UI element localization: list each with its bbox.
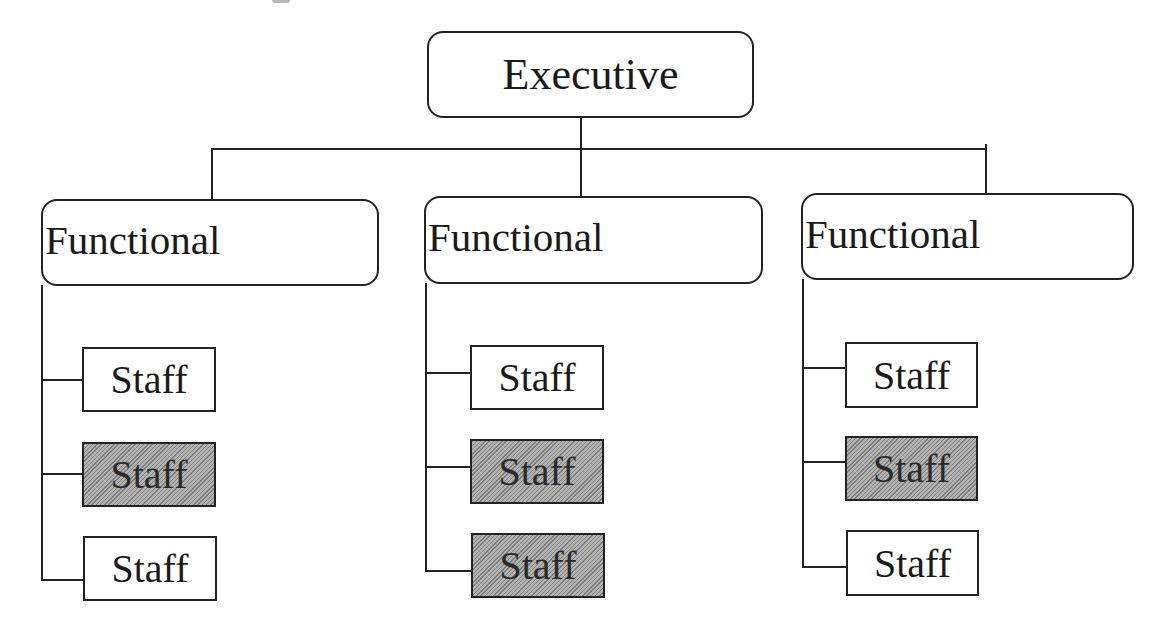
functional-label-3: Functional <box>805 210 980 258</box>
staff-label: Staff <box>873 445 950 492</box>
branch-3-3 <box>802 566 846 568</box>
staff-label: Staff <box>110 356 187 403</box>
staff-node-3-3: Staff <box>846 530 979 596</box>
executive-connector <box>580 117 582 197</box>
staff-node-1-3: Staff <box>83 536 217 601</box>
top-edge-artifact <box>272 0 290 3</box>
staff-node-3-2-shaded: Staff <box>845 436 978 501</box>
branch-2-3 <box>425 570 471 572</box>
staff-label: Staff <box>498 448 575 495</box>
functional-node-1: Functional <box>41 199 379 286</box>
staff-node-2-3-shaded: Staff <box>471 533 605 598</box>
branch-3-1 <box>802 367 846 369</box>
branch-3-2 <box>802 461 846 463</box>
spine-3 <box>802 279 804 568</box>
branch-1-2 <box>41 473 83 475</box>
bus-drop-1 <box>211 148 213 200</box>
staff-node-3-1: Staff <box>845 342 978 408</box>
functional-node-2: Functional <box>424 196 763 284</box>
bus-drop-3 <box>985 144 987 194</box>
functional-label-1: Functional <box>45 216 220 264</box>
functional-label-2: Functional <box>428 213 603 261</box>
spine-1 <box>41 285 43 581</box>
top-bus-line <box>211 148 987 150</box>
staff-node-2-2-shaded: Staff <box>470 439 604 504</box>
branch-2-1 <box>425 372 471 374</box>
staff-label: Staff <box>110 451 187 498</box>
staff-label: Staff <box>111 545 188 592</box>
executive-node: Executive <box>427 31 754 118</box>
staff-node-1-2-shaded: Staff <box>82 442 216 507</box>
spine-2 <box>425 283 427 572</box>
staff-label: Staff <box>498 354 575 401</box>
staff-label: Staff <box>873 352 950 399</box>
branch-1-3 <box>41 579 83 581</box>
staff-label: Staff <box>874 540 951 587</box>
functional-node-3: Functional <box>801 193 1134 280</box>
staff-label: Staff <box>499 542 576 589</box>
branch-1-1 <box>41 379 83 381</box>
executive-label: Executive <box>503 49 679 100</box>
staff-node-2-1: Staff <box>470 345 604 410</box>
staff-node-1-1: Staff <box>82 347 216 412</box>
branch-2-2 <box>425 466 471 468</box>
